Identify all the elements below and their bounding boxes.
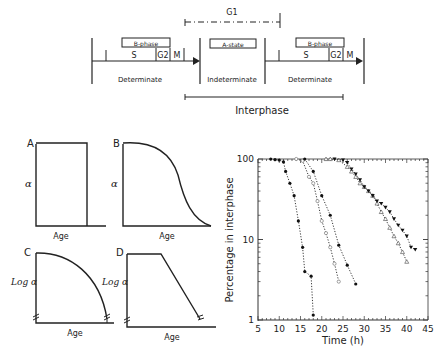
data-point xyxy=(388,210,392,214)
right-s-label: S xyxy=(303,51,308,60)
determinate-right-label: Determinate xyxy=(288,76,332,84)
right-m-label: M xyxy=(347,51,354,60)
data-point xyxy=(312,170,315,173)
left-s-label: S xyxy=(131,51,136,60)
panel-d-letter: D xyxy=(116,247,124,258)
data-point xyxy=(316,199,319,202)
data-point xyxy=(307,175,310,178)
a-state-label: A-state xyxy=(222,41,244,48)
data-point xyxy=(396,224,400,228)
y-tick-label: 10 xyxy=(243,235,255,245)
right-b-phase-label: B-phase xyxy=(308,40,333,48)
panel-a-xlabel: Age xyxy=(53,232,69,241)
data-point xyxy=(329,246,332,249)
data-point xyxy=(293,194,296,197)
panel-d: D Log α Age xyxy=(101,247,216,342)
panel-d-curve xyxy=(127,254,200,319)
data-point xyxy=(396,241,400,245)
y-tick-label: 100 xyxy=(237,154,254,164)
data-point xyxy=(312,314,315,317)
panel-c-letter: C xyxy=(24,247,31,258)
data-point xyxy=(301,246,304,249)
left-b-phase-label: B-phase xyxy=(134,40,159,48)
arrow-head-icon xyxy=(356,57,363,65)
panel-a: A α Age xyxy=(25,138,106,241)
data-point xyxy=(288,182,291,185)
x-tick-label: 15 xyxy=(295,324,306,334)
determinate-left-label: Determinate xyxy=(118,76,162,84)
data-point xyxy=(284,170,287,173)
y-tick-label: 1 xyxy=(248,315,254,325)
x-tick-label: 45 xyxy=(422,324,433,334)
series-2 xyxy=(295,157,341,283)
x-tick-labels: 51015202530354045 xyxy=(255,324,434,334)
data-point xyxy=(310,275,313,278)
x-tick-label: 35 xyxy=(380,324,391,334)
decay-chart: 51015202530354045 110100 Time (h) Percen… xyxy=(224,154,434,346)
panel-a-axes xyxy=(36,144,106,226)
data-point xyxy=(320,194,323,197)
interphase-label: Interphase xyxy=(235,105,289,116)
data-point xyxy=(379,202,383,206)
data-point xyxy=(303,270,306,273)
data-point xyxy=(337,280,340,283)
series-1 xyxy=(269,157,315,316)
data-point xyxy=(345,161,349,165)
data-point xyxy=(282,160,285,163)
data-point xyxy=(346,264,349,267)
data-point xyxy=(409,246,413,250)
data-point xyxy=(295,157,298,160)
panel-d-axes xyxy=(127,254,216,327)
data-point xyxy=(384,206,388,210)
arrow-head-icon xyxy=(193,57,200,65)
data-point xyxy=(324,232,327,235)
x-tick-label: 5 xyxy=(255,324,261,334)
y-tick-labels: 110100 xyxy=(237,154,254,325)
x-tick-label: 30 xyxy=(359,324,371,334)
data-point xyxy=(320,219,323,222)
chart-series xyxy=(269,157,417,317)
data-point xyxy=(379,210,383,214)
panel-a-curve xyxy=(36,143,87,226)
panel-a-ylabel: α xyxy=(25,178,32,189)
data-point xyxy=(345,165,349,169)
chart-xlabel: Time (h) xyxy=(321,335,364,346)
data-point xyxy=(401,250,405,254)
data-point xyxy=(388,226,392,230)
g1-label: G1 xyxy=(226,8,237,17)
panel-c-curve xyxy=(36,253,107,319)
x-tick-marks xyxy=(258,159,428,320)
data-point xyxy=(333,262,336,265)
chart-ylabel: Percentage in interphase xyxy=(224,177,235,302)
data-point xyxy=(297,219,300,222)
panel-b: B α Age xyxy=(111,138,211,241)
data-point xyxy=(312,182,315,185)
panel-c-ylabel: Log α xyxy=(10,277,37,287)
data-point xyxy=(269,157,272,160)
data-point xyxy=(303,157,306,160)
panel-c: C Log α Age xyxy=(10,247,114,338)
data-point xyxy=(354,282,357,285)
data-point xyxy=(337,244,340,247)
x-tick-label: 25 xyxy=(337,324,348,334)
data-point xyxy=(392,217,396,221)
data-point xyxy=(329,214,332,217)
y-tick-marks xyxy=(258,159,428,320)
panel-b-ylabel: α xyxy=(111,178,118,189)
panel-b-xlabel: Age xyxy=(159,232,175,241)
panel-c-xlabel: Age xyxy=(67,329,83,338)
data-point xyxy=(278,158,281,161)
data-point xyxy=(273,158,276,161)
series-5 xyxy=(333,157,418,251)
panel-a-letter: A xyxy=(27,138,34,149)
series-3 xyxy=(303,157,357,285)
data-point xyxy=(354,172,358,176)
x-tick-label: 20 xyxy=(316,324,328,334)
panel-d-xlabel: Age xyxy=(164,333,180,342)
right-g2-label: G2 xyxy=(330,51,341,60)
series-4 xyxy=(324,157,409,263)
data-point xyxy=(405,235,409,239)
data-point xyxy=(341,158,345,162)
data-point xyxy=(405,260,409,264)
panel-d-ylabel: Log α xyxy=(101,277,128,287)
